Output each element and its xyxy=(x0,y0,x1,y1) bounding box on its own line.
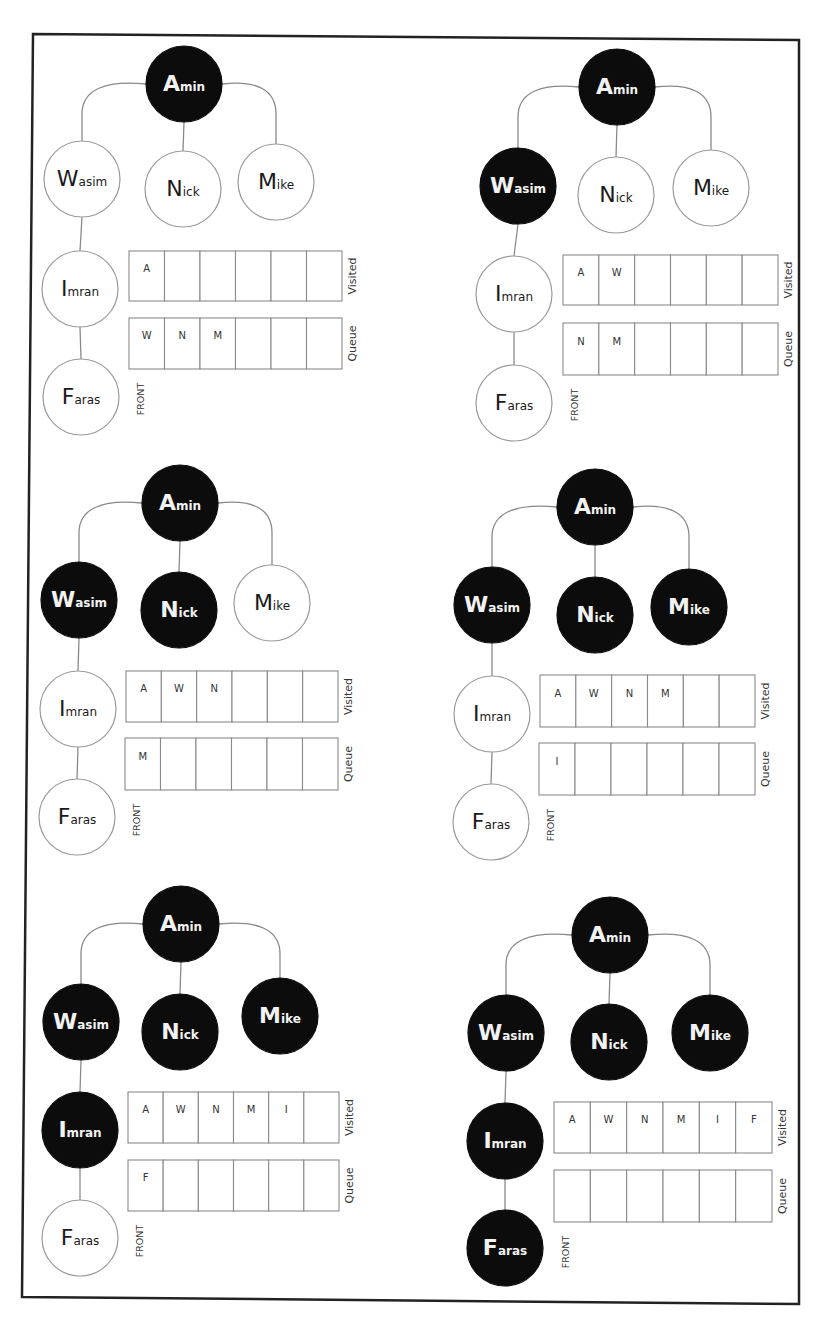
node-amin: Amin xyxy=(579,49,655,125)
step-panel-4: AminWasimNickMikeImranFarasAWNMVisitedIQ… xyxy=(453,469,772,860)
edge-A-W xyxy=(82,83,146,141)
queue-cell xyxy=(198,1160,233,1211)
queue-cell xyxy=(129,318,165,369)
visited-cell xyxy=(648,675,684,727)
visited-cell-value: A xyxy=(577,267,584,278)
queue-cell xyxy=(635,323,671,375)
visited-cell xyxy=(161,671,196,722)
node-amin: Amin xyxy=(572,897,648,973)
queue-array: NMQueue xyxy=(563,323,795,375)
front-label: FRONT xyxy=(134,1225,145,1258)
visited-cell xyxy=(129,251,165,301)
edge-A-M xyxy=(218,502,272,565)
node-nick: Nick xyxy=(141,572,217,648)
visited-cell-value: W xyxy=(589,688,599,699)
visited-array: AWVisited xyxy=(563,255,795,305)
step-panel-2: AminWasimNickMikeImranFarasAWVisitedNMQu… xyxy=(476,49,795,441)
front-label: FRONT xyxy=(135,383,146,416)
visited-label: Visited xyxy=(342,678,355,715)
edge-A-W xyxy=(79,502,142,562)
node-wasim: Wasim xyxy=(480,148,556,224)
visited-cell xyxy=(234,1092,269,1143)
queue-label: Queue xyxy=(346,325,359,361)
front-label: FRONT xyxy=(545,809,556,842)
front-label: FRONT xyxy=(131,804,142,837)
queue-cell xyxy=(269,1160,304,1211)
queue-cell-value: N xyxy=(577,336,584,347)
visited-cell xyxy=(267,671,302,722)
queue-cell xyxy=(736,1170,772,1222)
queue-cell xyxy=(663,1170,699,1222)
node-mike: Mike xyxy=(242,978,318,1054)
visited-cell-value: A xyxy=(140,683,147,694)
queue-label: Queue xyxy=(782,331,795,367)
queue-cell xyxy=(165,318,201,369)
node-faras: Faras xyxy=(39,779,115,855)
node-wasim: Wasim xyxy=(468,995,544,1071)
visited-cell-value: N xyxy=(626,688,633,699)
visited-cell-value: A xyxy=(143,263,150,274)
visited-cell xyxy=(304,1092,339,1143)
front-label: FRONT xyxy=(560,1236,571,1269)
queue-cell xyxy=(539,743,575,795)
visited-cell-value: A xyxy=(554,688,561,699)
queue-cell-value: F xyxy=(143,1172,149,1183)
queue-cell xyxy=(554,1170,590,1222)
queue-array: Queue xyxy=(554,1170,789,1222)
queue-cell xyxy=(163,1160,198,1211)
step-panel-6: AminWasimNickMikeImranFarasAWNMIFVisited… xyxy=(467,897,789,1286)
visited-label: Visited xyxy=(343,1099,356,1136)
visited-label: Visited xyxy=(759,682,772,719)
node-imran: Imran xyxy=(42,251,118,327)
visited-cell xyxy=(269,1092,304,1143)
visited-cell-value: W xyxy=(176,1104,186,1115)
node-nick: Nick xyxy=(557,577,633,653)
node-wasim: Wasim xyxy=(44,141,120,217)
edge-A-M xyxy=(222,83,276,144)
queue-array: FQueue xyxy=(128,1160,356,1211)
visited-cell-value: I xyxy=(285,1104,288,1115)
visited-cell-value: N xyxy=(211,683,218,694)
visited-cell xyxy=(197,671,232,722)
node-mike: Mike xyxy=(234,565,310,641)
queue-cell xyxy=(706,323,742,375)
visited-cell xyxy=(163,1092,198,1143)
queue-cell-value: M xyxy=(213,330,222,341)
step-panel-5: AminWasimNickMikeImranFarasAWNMIVisitedF… xyxy=(42,886,356,1276)
visited-cell xyxy=(563,255,599,305)
edge-A-N xyxy=(179,541,180,572)
node-wasim: Wasim xyxy=(454,567,530,643)
edge-A-N xyxy=(616,125,617,157)
edge-W-I xyxy=(78,638,79,671)
visited-cell-value: M xyxy=(661,688,670,699)
node-amin: Amin xyxy=(143,886,219,962)
node-imran: Imran xyxy=(40,671,116,747)
visited-cell xyxy=(307,251,343,301)
edge-W-I xyxy=(80,217,82,251)
node-amin: Amin xyxy=(142,465,218,541)
queue-cell xyxy=(719,743,755,795)
visited-cell-value: M xyxy=(247,1104,256,1115)
visited-label: Visited xyxy=(346,257,359,294)
queue-cell xyxy=(161,738,197,790)
queue-cell-value: M xyxy=(138,751,147,762)
node-imran: Imran xyxy=(42,1092,118,1168)
edge-I-F xyxy=(80,327,81,359)
queue-cell xyxy=(200,318,236,369)
queue-label: Queue xyxy=(776,1178,789,1214)
visited-cell xyxy=(627,1102,663,1153)
visited-cell xyxy=(126,671,161,722)
visited-array: AWNMIFVisited xyxy=(554,1102,789,1153)
node-imran: Imran xyxy=(476,256,552,332)
queue-cell xyxy=(267,738,303,790)
queue-cell xyxy=(647,743,683,795)
visited-cell xyxy=(198,1092,233,1143)
visited-array: AWNMIVisited xyxy=(128,1092,356,1143)
node-wasim: Wasim xyxy=(41,562,117,638)
node-mike: Mike xyxy=(673,150,749,226)
edge-A-M xyxy=(655,86,711,150)
node-faras: Faras xyxy=(467,1210,543,1286)
edge-A-N xyxy=(180,962,181,994)
visited-cell-value: W xyxy=(604,1114,614,1125)
visited-cell xyxy=(271,251,307,301)
